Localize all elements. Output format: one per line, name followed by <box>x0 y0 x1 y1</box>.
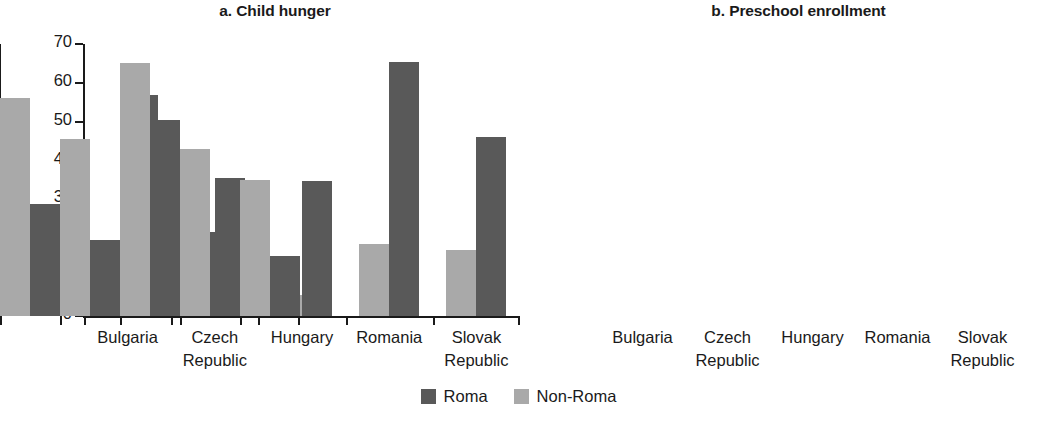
x-axis-category-label: Slovak Republic <box>940 316 1025 372</box>
x-axis-tick-mark <box>0 316 2 325</box>
chart-a-title: a. Child hunger <box>0 2 520 20</box>
x-axis-category-label: Hungary <box>258 316 345 372</box>
x-axis-category-label: Romania <box>346 316 433 372</box>
x-axis-tick-mark <box>120 316 122 325</box>
x-axis-tick-mark <box>240 316 242 325</box>
bar-group <box>346 44 433 316</box>
legend-item-non-roma: Non-Roma <box>514 388 617 405</box>
bar-non-roma <box>60 139 90 316</box>
x-axis-category-label: Bulgaria <box>600 316 685 372</box>
bar-non-roma <box>0 98 30 316</box>
bar-non-roma <box>446 250 476 316</box>
figure: a. Child hunger Percent 010203040506070 … <box>0 0 1037 421</box>
bar-non-roma <box>359 244 389 316</box>
bar-group <box>60 44 120 316</box>
x-axis-category-label: Romania <box>855 316 940 372</box>
x-axis-tick-mark <box>298 316 300 325</box>
x-axis-tick-mark <box>60 316 62 325</box>
bar-roma <box>389 62 419 317</box>
legend-swatch-icon <box>421 389 436 404</box>
x-axis-category-label: Slovak Republic <box>433 316 520 372</box>
chart-b-x-tick-labels: BulgariaCzech RepublicHungaryRomaniaSlov… <box>600 316 1025 372</box>
bar-group <box>0 44 60 316</box>
legend: RomaNon-Roma <box>0 388 1037 405</box>
x-axis-category-label: Bulgaria <box>84 316 171 372</box>
chart-a-x-tick-labels: BulgariaCzech RepublicHungaryRomaniaSlov… <box>84 316 520 372</box>
bar-roma <box>210 232 240 316</box>
x-axis-category-label: Czech Republic <box>171 316 258 372</box>
bar-group <box>240 44 300 316</box>
bar-roma <box>302 181 332 316</box>
bar-roma <box>30 204 60 316</box>
bar-non-roma <box>120 63 150 316</box>
bar-group <box>433 44 520 316</box>
bar-group <box>120 44 180 316</box>
bar-group <box>180 44 240 316</box>
bar-non-roma <box>240 180 270 316</box>
legend-item-roma: Roma <box>421 388 488 405</box>
chart-b-title: b. Preschool enrollment <box>520 2 1037 20</box>
legend-label: Non-Roma <box>537 388 617 405</box>
legend-label: Roma <box>444 388 488 405</box>
bar-roma <box>90 240 120 316</box>
bar-roma <box>476 137 506 316</box>
x-axis-category-label: Czech Republic <box>685 316 770 372</box>
x-axis-category-label: Hungary <box>770 316 855 372</box>
x-axis-tick-mark <box>180 316 182 325</box>
bar-non-roma <box>180 149 210 316</box>
bar-roma <box>270 256 300 316</box>
legend-swatch-icon <box>514 389 529 404</box>
bar-roma <box>150 120 180 316</box>
